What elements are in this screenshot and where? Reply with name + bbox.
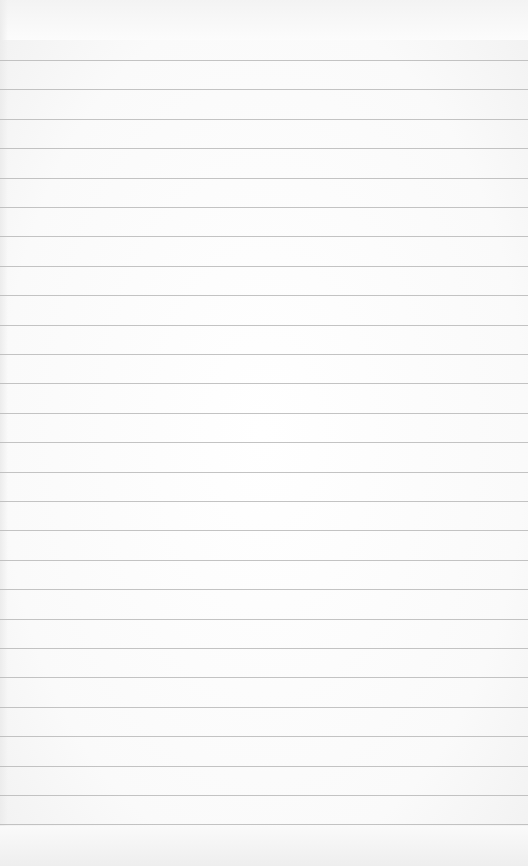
ruled-line [0,442,528,443]
ruled-line [0,325,528,326]
paper-bottom-edge [0,826,528,866]
ruled-line [0,119,528,120]
ruled-line [0,383,528,384]
ruled-line [0,89,528,90]
ruled-line [0,501,528,502]
notepad-paper [0,0,528,866]
ruled-line [0,619,528,620]
ruled-line [0,148,528,149]
ruled-line [0,207,528,208]
ruled-line [0,795,528,796]
ruled-line [0,766,528,767]
ruled-line [0,413,528,414]
ruled-line [0,530,528,531]
ruled-line [0,677,528,678]
ruled-line [0,354,528,355]
ruled-line [0,589,528,590]
ruled-line [0,236,528,237]
ruled-line [0,295,528,296]
ruled-line [0,648,528,649]
ruled-line [0,266,528,267]
ruled-line [0,178,528,179]
ruled-line [0,560,528,561]
ruled-line [0,472,528,473]
ruled-line [0,824,528,825]
paper-top-edge [0,0,528,40]
ruled-line [0,736,528,737]
ruled-line [0,707,528,708]
ruled-line [0,60,528,61]
